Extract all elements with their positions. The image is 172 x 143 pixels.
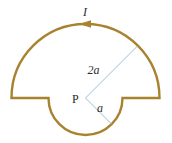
current-loop-wire — [12, 24, 160, 135]
current-direction-arrow-icon — [79, 20, 91, 28]
point-p-label: P — [72, 92, 79, 106]
current-label: I — [82, 5, 88, 19]
small-radius-label: a — [97, 101, 103, 115]
current-loop-diagram: I P 2a a — [0, 0, 172, 143]
large-radius-label: 2a — [88, 63, 100, 77]
